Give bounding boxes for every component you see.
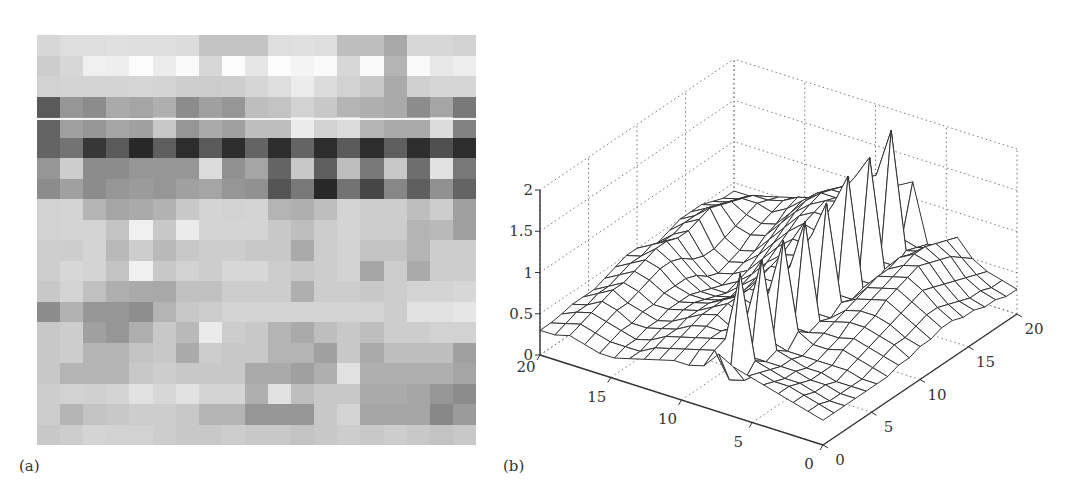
panel-label-a: (a): [19, 457, 40, 475]
panel-label-b: (b): [503, 457, 524, 475]
x-tick-label: 0: [804, 455, 814, 473]
z-tick-label: 1: [523, 264, 533, 282]
z-tick-label: 1.5: [509, 222, 533, 240]
y-tick-label: 0: [835, 451, 845, 469]
x-tick-label: 20: [516, 358, 535, 376]
x-tick-label: 5: [733, 433, 743, 451]
x-tick-label: 10: [658, 410, 677, 428]
y-tick-label: 20: [1024, 320, 1043, 338]
x-tick-label: 15: [587, 388, 606, 406]
panel-b-surface-plot: 00.511.520510152005101520: [0, 0, 1078, 497]
y-tick-label: 15: [976, 353, 995, 371]
y-tick-label: 5: [884, 418, 894, 436]
z-tick-label: 2: [523, 181, 533, 199]
z-tick-label: 0.5: [509, 305, 533, 323]
y-tick-label: 10: [927, 386, 946, 404]
